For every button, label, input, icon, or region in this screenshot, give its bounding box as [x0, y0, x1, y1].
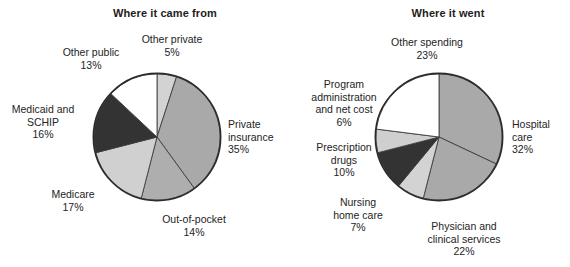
label-other-private: Other private 5%	[133, 33, 211, 58]
label-other-public: Other public 13%	[52, 46, 130, 71]
pie-right-slices	[376, 74, 502, 200]
label-private-insurance: Private insurance 35%	[228, 118, 294, 156]
pie-right-svg	[372, 70, 506, 204]
label-prescription-drugs: Prescription drugs 10%	[303, 141, 385, 179]
label-physician-and-clinical-services: Physician and clinical services 22%	[408, 220, 520, 258]
pie-left-slices	[94, 74, 220, 200]
pie-chart-where-it-went	[372, 70, 506, 204]
label-nursing-home-care: Nursing home care 7%	[318, 196, 398, 234]
label-hospital-care: Hospital care 32%	[512, 118, 570, 156]
label-program-administration-and-net-cost: Program administration and net cost 6%	[303, 78, 385, 128]
label-medicaid-and-schip: Medicaid and SCHIP 16%	[2, 103, 84, 141]
chart-title-right: Where it went	[378, 7, 518, 19]
label-other-spending: Other spending 23%	[375, 36, 479, 61]
label-medicare: Medicare 17%	[35, 188, 111, 213]
figure-container: Where it came from Other private 5% Othe…	[0, 0, 570, 267]
pie-chart-where-it-came-from	[90, 70, 224, 204]
pie-slice-other-spending	[376, 74, 439, 137]
pie-left-svg	[90, 70, 224, 204]
label-out-of-pocket: Out-of-pocket 14%	[148, 213, 240, 238]
chart-title-left: Where it came from	[95, 7, 235, 19]
